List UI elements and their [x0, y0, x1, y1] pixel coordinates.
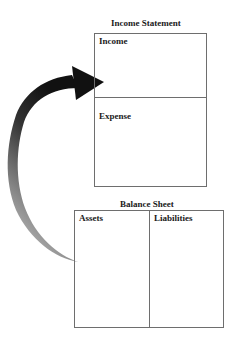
liabilities-box: Liabilities: [149, 210, 224, 328]
assets-box: Assets: [74, 210, 150, 328]
income-statement-title: Income Statement: [111, 18, 181, 28]
income-statement-box: Income: [94, 33, 207, 98]
income-label: Income: [99, 36, 128, 46]
liabilities-label: Liabilities: [154, 213, 193, 223]
balance-sheet-title: Balance Sheet: [120, 199, 174, 209]
assets-label: Assets: [79, 213, 103, 223]
expense-label: Expense: [99, 111, 131, 121]
expense-box: Expense: [94, 97, 207, 187]
